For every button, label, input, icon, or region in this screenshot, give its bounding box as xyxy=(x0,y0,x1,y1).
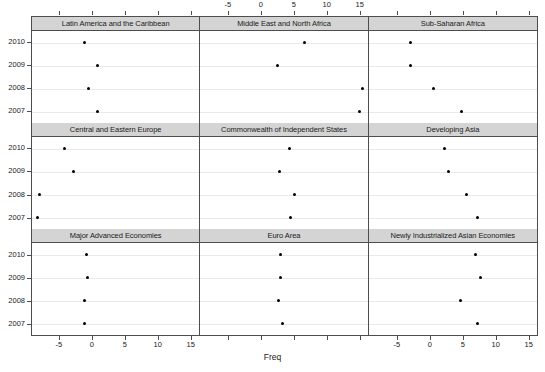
gridline-horizontal xyxy=(369,324,537,325)
gridline-horizontal xyxy=(369,43,537,44)
x-axis-tick-minor xyxy=(496,11,497,15)
y-axis-tick-label: 2010 xyxy=(0,144,25,152)
gridline-horizontal xyxy=(32,112,199,113)
panel-commonwealth-of-independent-states: Commonwealth of Independent States xyxy=(200,123,368,229)
panel-plot-area xyxy=(32,31,199,123)
y-axis-tick-label: 2008 xyxy=(0,297,25,305)
gridline-horizontal xyxy=(200,172,367,173)
panel-strip-label: Major Advanced Economies xyxy=(70,232,162,240)
x-axis-tick xyxy=(294,11,295,15)
x-axis-tick-label: -5 xyxy=(224,1,231,9)
y-axis-tick-label: 2007 xyxy=(0,214,25,222)
gridline-horizontal xyxy=(32,149,199,150)
y-axis-tick xyxy=(27,148,31,149)
y-axis-tick xyxy=(27,255,31,256)
x-axis-tick-label: 15 xyxy=(525,341,533,349)
panel-plot-area xyxy=(32,137,199,229)
data-point xyxy=(459,299,462,302)
x-axis-tick-minor xyxy=(463,11,464,15)
data-point xyxy=(303,41,306,44)
x-axis-tick-minor xyxy=(529,11,530,15)
data-point xyxy=(288,147,291,150)
panel-newly-industrialized-asian-economies: Newly Industrialized Asian Economies xyxy=(369,229,537,335)
data-point xyxy=(38,193,41,196)
x-axis-tick-minor xyxy=(158,11,159,15)
gridline-horizontal xyxy=(32,301,199,302)
gridline-horizontal xyxy=(369,255,537,256)
panel-strip-label: Sub-Saharan Africa xyxy=(421,20,485,28)
gridline-horizontal xyxy=(200,66,367,67)
lattice-dotplot-chart: -5051015 Latin America and the Caribbean… xyxy=(0,0,545,372)
panel-strip-label: Euro Area xyxy=(268,232,301,240)
y-axis-tick-label: 2010 xyxy=(0,251,25,259)
gridline-horizontal xyxy=(200,324,367,325)
panel-middle-east-and-north-africa: Middle East and North Africa xyxy=(200,17,368,123)
y-axis-tick-label: 2009 xyxy=(0,61,25,69)
data-point xyxy=(479,276,482,279)
panel-strip-label: Commonwealth of Independent States xyxy=(221,126,347,134)
y-axis-tick xyxy=(27,324,31,325)
x-axis-tick-minor xyxy=(228,336,229,340)
x-axis-tick xyxy=(261,11,262,15)
data-point xyxy=(293,193,296,196)
data-point xyxy=(358,110,361,113)
panel-strip: Euro Area xyxy=(200,229,367,243)
panel-plot-area xyxy=(369,137,537,229)
gridline-horizontal xyxy=(200,218,367,219)
data-point xyxy=(474,253,477,256)
x-axis-tick-label: 0 xyxy=(428,341,432,349)
data-point xyxy=(281,322,284,325)
y-axis-tick xyxy=(27,195,31,196)
y-axis-tick xyxy=(27,65,31,66)
data-point xyxy=(476,322,479,325)
data-point xyxy=(361,87,364,90)
gridline-horizontal xyxy=(200,255,367,256)
y-axis-tick-label: 2010 xyxy=(0,38,25,46)
gridline-horizontal xyxy=(369,172,537,173)
panel-strip: Central and Eastern Europe xyxy=(32,123,199,137)
panel-euro-area: Euro Area xyxy=(200,229,368,335)
data-point xyxy=(447,170,450,173)
data-point xyxy=(279,253,282,256)
data-point xyxy=(277,299,280,302)
x-axis-tick-minor xyxy=(360,336,361,340)
y-axis-tick-label: 2009 xyxy=(0,167,25,175)
gridline-horizontal xyxy=(32,195,199,196)
panel-central-and-eastern-europe: Central and Eastern Europe xyxy=(32,123,200,229)
data-point xyxy=(476,216,479,219)
x-axis-tick-minor xyxy=(92,11,93,15)
panel-strip: Middle East and North Africa xyxy=(200,17,367,31)
gridline-horizontal xyxy=(32,66,199,67)
panel-plot-area xyxy=(32,243,199,335)
data-point xyxy=(289,216,292,219)
data-point xyxy=(86,276,89,279)
y-axis-tick xyxy=(27,301,31,302)
gridline-horizontal xyxy=(369,301,537,302)
panel-strip-label: Developing Asia xyxy=(426,126,479,134)
gridline-horizontal xyxy=(200,89,367,90)
gridline-horizontal xyxy=(32,324,199,325)
panel-grid: Latin America and the CaribbeanMiddle Ea… xyxy=(31,16,538,336)
data-point xyxy=(460,110,463,113)
data-point xyxy=(83,41,86,44)
gridline-horizontal xyxy=(369,66,537,67)
x-axis-tick-label: 0 xyxy=(259,1,263,9)
y-axis-tick-label: 2008 xyxy=(0,191,25,199)
gridline-horizontal xyxy=(200,112,367,113)
x-axis-label: Freq xyxy=(0,352,545,362)
y-axis-left: 2010200920082007201020092008200720102009… xyxy=(0,0,31,372)
panel-major-advanced-economies: Major Advanced Economies xyxy=(32,229,200,335)
gridline-horizontal xyxy=(200,43,367,44)
data-point xyxy=(83,299,86,302)
gridline-horizontal xyxy=(32,278,199,279)
x-axis-tick xyxy=(360,11,361,15)
panel-plot-area xyxy=(369,31,537,123)
gridline-horizontal xyxy=(369,195,537,196)
gridline-horizontal xyxy=(32,89,199,90)
gridline-horizontal xyxy=(369,149,537,150)
panel-strip: Developing Asia xyxy=(369,123,537,137)
data-point xyxy=(278,170,281,173)
data-point xyxy=(443,147,446,150)
x-axis-tick-label: 10 xyxy=(323,1,331,9)
panel-plot-area xyxy=(200,243,367,335)
